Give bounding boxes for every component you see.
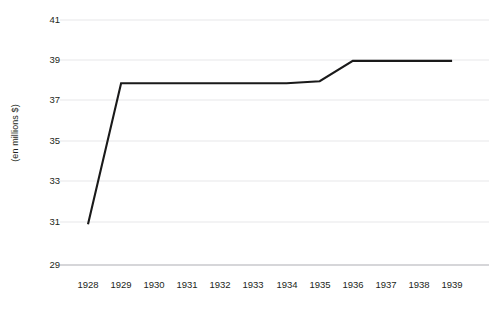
gridlines bbox=[60, 20, 489, 222]
line-chart: (en millions $) 41 39 37 35 33 31 29 192… bbox=[0, 0, 491, 310]
plot-area bbox=[0, 0, 491, 310]
x-tick-label: 1939 bbox=[432, 279, 472, 290]
series-line bbox=[88, 61, 452, 224]
